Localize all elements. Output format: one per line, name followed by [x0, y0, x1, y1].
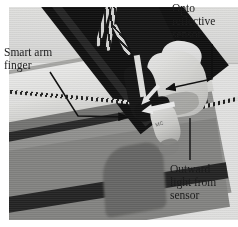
leader-opto-reflective-sensor — [166, 44, 212, 89]
label-opto-reflective-sensor: Opto reflective sensor — [172, 2, 215, 41]
leader-smart-arm-finger — [50, 72, 128, 117]
label-outward-light-from-sensor: Outward light from sensor — [170, 163, 216, 202]
label-smart-arm-finger: Smart arm finger — [4, 46, 52, 72]
annotated-photograph-figure: MC Smart arm finger Opto reflective sens… — [0, 0, 238, 227]
